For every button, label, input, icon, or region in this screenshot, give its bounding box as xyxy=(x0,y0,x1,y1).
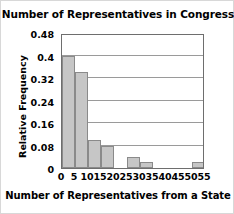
x-tick-label: 5 xyxy=(71,171,78,182)
x-tick-label: 0 xyxy=(58,171,65,182)
bar xyxy=(127,157,140,168)
x-tick-label: 50 xyxy=(184,171,197,182)
y-tick-label: 0.32 xyxy=(31,74,54,85)
chart-title: Number of Representatives in Congress xyxy=(1,8,234,20)
x-tick-label: 15 xyxy=(93,171,106,182)
y-tick-label: 0.08 xyxy=(31,141,54,152)
bar xyxy=(62,56,75,169)
y-tick-label: 0 xyxy=(47,164,54,175)
histogram-figure: Number of Representatives in Congress Re… xyxy=(0,0,234,214)
x-axis-title: Number of Representatives from a State xyxy=(1,190,234,201)
y-tick-label: 0.24 xyxy=(31,96,54,107)
bar xyxy=(75,72,88,168)
gridline xyxy=(62,55,203,56)
x-tick-label: 20 xyxy=(106,171,119,182)
bar xyxy=(192,162,204,168)
x-tick-label: 30 xyxy=(132,171,145,182)
bar xyxy=(140,162,153,168)
x-axis-tick-labels: 0510152025303540455055 xyxy=(61,171,204,185)
bar xyxy=(101,146,114,169)
y-tick-label: 0.48 xyxy=(31,29,54,40)
bar xyxy=(88,140,101,168)
x-tick-label: 40 xyxy=(158,171,171,182)
x-tick-label: 55 xyxy=(197,171,210,182)
y-axis-tick-labels: 00.080.160.240.320.40.48 xyxy=(1,34,58,169)
x-tick-label: 45 xyxy=(171,171,184,182)
plot-area xyxy=(61,34,204,169)
x-tick-label: 35 xyxy=(145,171,158,182)
x-tick-label: 25 xyxy=(119,171,132,182)
y-tick-label: 0.16 xyxy=(31,119,54,130)
y-tick-label: 0.4 xyxy=(37,51,54,62)
x-tick-label: 10 xyxy=(80,171,93,182)
